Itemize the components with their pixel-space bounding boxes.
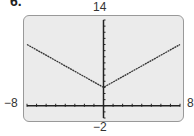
plot-area	[0, 0, 194, 136]
